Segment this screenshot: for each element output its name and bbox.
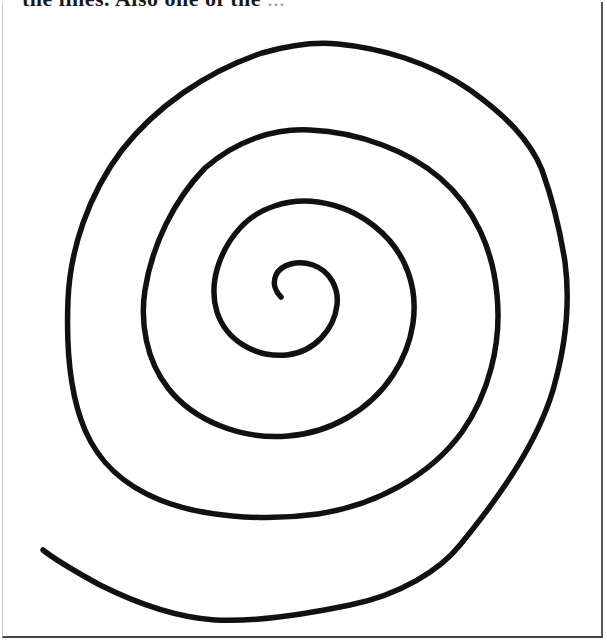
spiral-path bbox=[43, 43, 567, 620]
spiral-drawing bbox=[0, 0, 607, 643]
